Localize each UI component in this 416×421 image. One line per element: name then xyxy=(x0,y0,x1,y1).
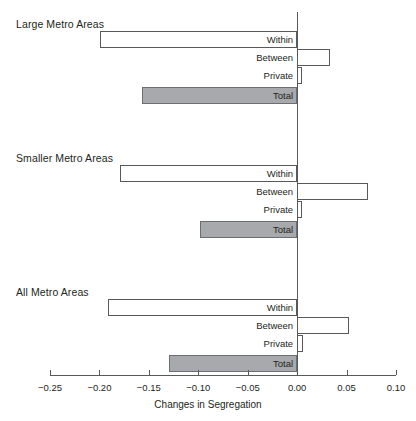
bar-label-1-1: Between xyxy=(256,186,293,197)
x-tick-0 xyxy=(50,370,51,375)
bar-2-2 xyxy=(297,335,303,352)
bar-1-2 xyxy=(297,201,302,218)
bar-label-1-0: Within xyxy=(267,168,293,179)
group-title-1: Smaller Metro Areas xyxy=(16,152,113,164)
bar-label-1-3: Total xyxy=(273,224,293,235)
x-tick-label-3: −0.10 xyxy=(186,382,210,393)
x-tick-label-4: −0.05 xyxy=(236,382,260,393)
x-tick-label-7: 0.10 xyxy=(387,382,406,393)
segregation-changes-chart: Large Metro AreasWithinBetweenPrivateTot… xyxy=(0,0,416,421)
x-tick-1 xyxy=(99,370,100,375)
x-tick-label-2: −0.15 xyxy=(137,382,161,393)
bar-1-1 xyxy=(297,183,368,200)
x-tick-label-5: 0.00 xyxy=(288,382,307,393)
x-tick-5 xyxy=(297,370,298,375)
bar-label-0-1: Between xyxy=(256,52,293,63)
bar-0-1 xyxy=(297,49,330,66)
bar-label-0-3: Total xyxy=(273,90,293,101)
x-tick-label-1: −0.20 xyxy=(87,382,111,393)
bar-label-2-0: Within xyxy=(267,302,293,313)
bar-0-2 xyxy=(297,67,302,84)
x-tick-3 xyxy=(198,370,199,375)
x-axis-line xyxy=(50,375,396,376)
x-tick-label-0: −0.25 xyxy=(38,382,62,393)
x-tick-6 xyxy=(347,370,348,375)
bar-label-0-0: Within xyxy=(267,34,293,45)
x-tick-4 xyxy=(248,370,249,375)
bar-2-1 xyxy=(297,317,348,334)
bar-label-2-1: Between xyxy=(256,320,293,331)
bar-label-0-2: Private xyxy=(264,70,294,81)
x-tick-7 xyxy=(396,370,397,375)
x-tick-label-6: 0.05 xyxy=(337,382,356,393)
x-axis-title: Changes in Segregation xyxy=(0,399,416,410)
bar-label-2-2: Private xyxy=(264,338,294,349)
bar-label-1-2: Private xyxy=(264,204,294,215)
group-title-2: All Metro Areas xyxy=(16,286,89,298)
plot-area: Large Metro AreasWithinBetweenPrivateTot… xyxy=(0,0,416,421)
bar-label-2-3: Total xyxy=(273,358,293,369)
x-tick-2 xyxy=(149,370,150,375)
group-title-0: Large Metro Areas xyxy=(16,18,104,30)
